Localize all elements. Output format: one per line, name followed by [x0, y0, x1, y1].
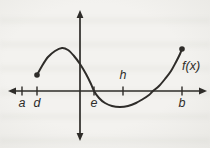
right-endpoint-dot — [179, 46, 185, 52]
tick-label-h: h — [120, 68, 127, 82]
x-axis-right-arrow-icon — [199, 88, 207, 95]
tick-label-d: d — [34, 96, 42, 110]
ticks-group: adehb — [19, 68, 186, 110]
x-axis-left-arrow-icon — [8, 88, 16, 95]
y-axis-down-arrow-icon — [77, 133, 84, 141]
left-endpoint-dot — [34, 72, 40, 78]
tick-label-b: b — [179, 96, 186, 110]
function-label: f(x) — [182, 59, 200, 73]
function-curve — [37, 48, 182, 107]
curve-group — [34, 46, 185, 107]
tick-label-a: a — [19, 96, 26, 110]
function-graph: adehb f(x) — [0, 0, 210, 148]
y-axis-up-arrow-icon — [77, 10, 84, 18]
tick-label-e: e — [91, 96, 98, 110]
